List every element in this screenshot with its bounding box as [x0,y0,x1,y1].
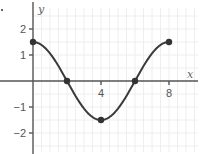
y-axis-label: y [37,3,45,16]
cosine-graph: 4821−1−2 y x [0,0,206,154]
cropped-label-dot [1,9,3,11]
y-tick-label: 2 [20,23,26,35]
y-tick-label: 1 [20,49,26,61]
y-tick-label: −1 [13,101,26,113]
data-point [64,78,70,84]
x-axis-label: x [187,68,194,81]
x-tick-label: 8 [166,87,172,99]
axes [0,2,198,154]
data-point [132,78,138,84]
data-point [30,39,36,45]
grid [33,8,198,152]
x-tick-label: 4 [98,87,104,99]
data-point [98,117,104,123]
y-tick-label: −2 [13,127,26,139]
data-point [166,39,172,45]
